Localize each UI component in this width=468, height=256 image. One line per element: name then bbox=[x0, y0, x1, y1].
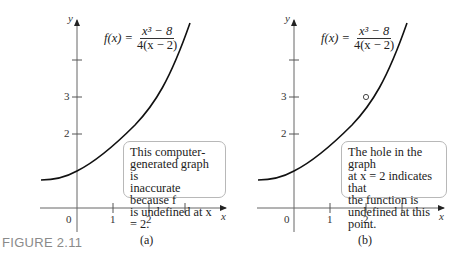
formula-lhs: f(x) = bbox=[104, 31, 133, 46]
formula-denominator: 4(x − 2) bbox=[354, 39, 394, 52]
panel-b-hole bbox=[363, 94, 368, 99]
panel-b-xtick-0: 0 bbox=[284, 213, 290, 225]
panel-a-ytick-2: 2 bbox=[64, 127, 70, 139]
note-line: inaccurate because f bbox=[130, 182, 220, 206]
panel-b-caption: (b) bbox=[358, 233, 372, 248]
panel-a-xtick-1: 1 bbox=[110, 213, 116, 225]
panel-b-ytick-2: 2 bbox=[281, 127, 287, 139]
note-line: at x = 2 indicates that bbox=[348, 170, 441, 194]
panel-b-xtick-1: 1 bbox=[327, 213, 333, 225]
formula-numerator: x³ − 8 bbox=[140, 25, 174, 39]
panel-b-note: The hole in the graph at x = 2 indicates… bbox=[341, 141, 447, 198]
panel-b-ytick-3: 3 bbox=[281, 90, 287, 102]
note-line: generated graph is bbox=[130, 158, 220, 182]
note-line: undefined at this point. bbox=[348, 206, 441, 230]
panel-b-y-label: y bbox=[285, 12, 290, 24]
formula-denominator: 4(x − 2) bbox=[137, 39, 177, 52]
panel-a-ytick-3: 3 bbox=[64, 90, 70, 102]
panel-a-note: This computer- generated graph is inaccu… bbox=[123, 141, 226, 198]
formula-numerator: x³ − 8 bbox=[357, 25, 391, 39]
figure-label: FIGURE 2.11 bbox=[2, 235, 82, 250]
panel-a-x-label: x bbox=[221, 210, 226, 222]
panel-b-formula: f(x) = x³ − 8 4(x − 2) bbox=[321, 25, 394, 52]
formula-lhs: f(x) = bbox=[321, 31, 350, 46]
note-line: is undefined at x = 2. bbox=[130, 206, 220, 230]
panel-a-y-label: y bbox=[68, 12, 73, 24]
panel-a-caption: (a) bbox=[140, 233, 153, 248]
panel-a-xtick-0: 0 bbox=[66, 213, 72, 225]
note-line: The hole in the graph bbox=[348, 146, 441, 170]
panel-a-formula: f(x) = x³ − 8 4(x − 2) bbox=[104, 25, 177, 52]
